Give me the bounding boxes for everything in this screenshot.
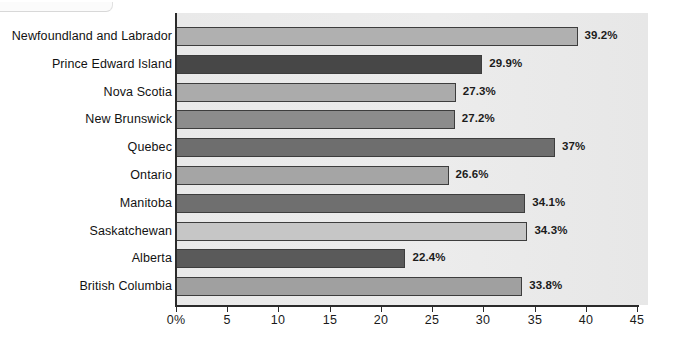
- bar-value-label: 34.1%: [532, 196, 565, 208]
- category-label: Nova Scotia: [0, 85, 172, 99]
- x-tick-mark: [535, 306, 536, 312]
- bar-value-label: 26.6%: [456, 168, 489, 180]
- category-label: British Columbia: [0, 279, 172, 293]
- bar-chart: 39.2%29.9%27.3%27.2%37%26.6%34.1%34.3%22…: [0, 0, 675, 344]
- bar-row: 26.6%: [176, 166, 648, 185]
- bar-value-label: 22.4%: [412, 251, 445, 263]
- bar-row: 33.8%: [176, 277, 648, 296]
- bar[interactable]: [176, 277, 522, 296]
- x-tick-label: 30: [476, 313, 490, 327]
- bar-row: 22.4%: [176, 249, 648, 268]
- bar[interactable]: [176, 194, 525, 213]
- x-tick-mark: [586, 306, 587, 312]
- bar-value-label: 33.8%: [529, 279, 562, 291]
- y-axis-line: [175, 13, 177, 306]
- category-label: Prince Edward Island: [0, 57, 172, 71]
- bar[interactable]: [176, 83, 456, 102]
- bar[interactable]: [176, 166, 449, 185]
- category-label: Quebec: [0, 140, 172, 154]
- x-tick-mark: [330, 306, 331, 312]
- x-tick-label: 35: [528, 313, 542, 327]
- bar-row: 39.2%: [176, 27, 648, 46]
- bar[interactable]: [176, 249, 405, 268]
- x-tick-label: 20: [374, 313, 388, 327]
- x-tick-mark: [381, 306, 382, 312]
- bar-row: 29.9%: [176, 55, 648, 74]
- category-label: Alberta: [0, 251, 172, 265]
- bar-row: 34.3%: [176, 222, 648, 241]
- x-tick-label: 0%: [167, 313, 185, 327]
- plot-area: 39.2%29.9%27.3%27.2%37%26.6%34.1%34.3%22…: [176, 13, 648, 305]
- bar-value-label: 27.2%: [462, 112, 495, 124]
- x-tick-label: 5: [223, 313, 230, 327]
- x-tick-mark: [176, 306, 177, 312]
- x-tick-mark: [278, 306, 279, 312]
- x-tick-mark: [637, 306, 638, 312]
- x-tick-label: 45: [630, 313, 644, 327]
- x-tick-label: 25: [425, 313, 439, 327]
- bar[interactable]: [176, 27, 578, 46]
- x-axis-line: [175, 305, 639, 307]
- bar-value-label: 39.2%: [585, 29, 618, 41]
- bar[interactable]: [176, 138, 555, 157]
- bar-row: 34.1%: [176, 194, 648, 213]
- x-tick-mark: [227, 306, 228, 312]
- scan-artifact: [0, 2, 113, 12]
- bar-value-label: 37%: [562, 140, 585, 152]
- bar-value-label: 29.9%: [489, 57, 522, 69]
- category-label: Saskatchewan: [0, 224, 172, 238]
- category-label: Manitoba: [0, 196, 172, 210]
- bar-value-label: 27.3%: [463, 85, 496, 97]
- x-tick-mark: [483, 306, 484, 312]
- bar-row: 27.3%: [176, 83, 648, 102]
- bar[interactable]: [176, 55, 482, 74]
- x-tick-label: 10: [271, 313, 285, 327]
- category-label: Newfoundland and Labrador: [0, 29, 172, 43]
- bar-row: 37%: [176, 138, 648, 157]
- category-axis-labels: Newfoundland and LabradorPrince Edward I…: [0, 13, 172, 305]
- bar-row: 27.2%: [176, 110, 648, 129]
- x-tick-label: 15: [323, 313, 337, 327]
- category-label: New Brunswick: [0, 112, 172, 126]
- x-tick-label: 40: [579, 313, 593, 327]
- bar[interactable]: [176, 222, 527, 241]
- bar-value-label: 34.3%: [534, 224, 567, 236]
- category-label: Ontario: [0, 168, 172, 182]
- x-tick-mark: [432, 306, 433, 312]
- bar[interactable]: [176, 110, 455, 129]
